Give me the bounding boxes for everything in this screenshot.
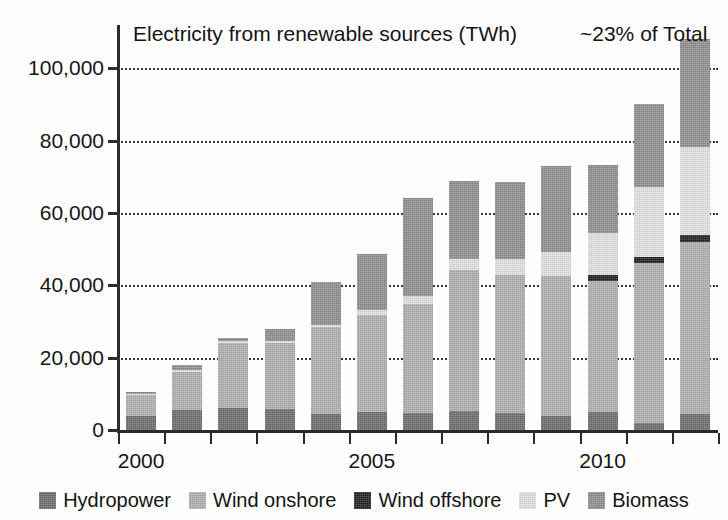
legend-label: PV [543,489,570,511]
bar-segment [126,393,156,415]
legend-label: Wind onshore [213,489,336,511]
y-axis-tick-mark [108,357,119,360]
legend-item[interactable]: Hydropower [39,489,171,511]
y-axis-tick-labels: 020,00040,00060,00080,000100,000 [0,0,104,520]
y-axis-tick-mark [108,140,119,143]
bar-segment [172,371,202,410]
legend-label: Hydropower [63,489,171,511]
x-axis-tick-mark [441,433,443,444]
bar-segment [588,275,618,280]
bar-segment [680,242,710,414]
x-axis-tick-label: 2000 [118,449,165,472]
legend-item[interactable]: PV [519,489,570,511]
bar-segment [634,263,664,423]
bar-segment [588,165,618,233]
bar-segment [541,276,571,416]
legend-swatch-icon [354,492,371,509]
bar-segment [265,409,295,430]
bar-segment [634,187,664,257]
bar-segment [172,370,202,372]
bar-group[interactable] [126,25,156,430]
y-axis-tick-label: 80,000 [40,130,104,151]
bar-segment [403,296,433,304]
y-axis-tick-label: 20,000 [40,347,104,368]
bar-group[interactable] [218,25,248,430]
bar-group[interactable] [403,25,433,430]
bar-segment [634,257,664,263]
bar-segment [357,412,387,430]
bar-group[interactable] [495,25,525,430]
bar-segment [403,198,433,296]
bar-group[interactable] [357,25,387,430]
bar-segment [495,182,525,259]
bar-segment [541,252,571,276]
bar-segment [265,342,295,409]
x-axis-tick-mark [164,433,166,444]
legend-item[interactable]: Wind onshore [189,489,336,511]
bar-segment [449,181,479,258]
legend-item[interactable]: Wind offshore [354,489,501,511]
bar-segment [449,270,479,411]
bar-segment [357,310,387,315]
bar-segment [218,408,248,430]
chart-legend: HydropowerWind onshoreWind offshorePVBio… [0,484,728,516]
x-axis-tick-mark [118,433,120,444]
plot-area [118,25,718,430]
bar-segment [680,414,710,430]
x-axis-tick-mark [303,433,305,444]
bar-segment [403,304,433,412]
bar-group[interactable] [449,25,479,430]
x-axis-tick-mark [349,433,351,444]
bar-group[interactable] [634,25,664,430]
legend-item[interactable]: Biomass [588,489,689,511]
legend-label: Wind offshore [378,489,501,511]
bar-segment [357,315,387,412]
x-axis-tick-mark [256,433,258,444]
chart-title: Electricity from renewable sources (TWh) [133,22,517,46]
y-axis-tick-mark [108,284,119,287]
y-axis-tick-label: 60,000 [40,202,104,223]
bar-group[interactable] [541,25,571,430]
bar-segment [634,423,664,430]
bar-segment [403,413,433,430]
bar-segment [311,282,341,325]
bar-group[interactable] [311,25,341,430]
bar-segment [541,416,571,430]
bar-group[interactable] [265,25,295,430]
y-axis-tick-label: 100,000 [28,57,104,78]
x-axis-tick-mark [533,433,535,444]
bar-segment [265,341,295,343]
legend-swatch-icon [588,492,605,509]
chart-figure: 020,00040,00060,00080,000100,000 2000200… [0,0,728,520]
bar-segment [218,341,248,408]
bar-segment [172,365,202,370]
y-axis-tick-mark [108,67,119,70]
bar-segment [311,325,341,327]
bar-segment [126,416,156,430]
bar-group[interactable] [680,25,710,430]
legend-swatch-icon [519,492,536,509]
bar-segment [449,259,479,270]
bar-segment [172,410,202,430]
bar-segment [588,412,618,430]
y-axis-tick-label: 0 [92,419,104,440]
x-axis-tick-label: 2005 [348,449,395,472]
bar-segment [680,39,710,147]
bar-segment [218,338,248,341]
bar-segment [680,235,710,242]
y-axis-tick-label: 40,000 [40,274,104,295]
x-axis-tick-mark [672,433,674,444]
bar-segment [541,166,571,251]
x-axis-tick-mark [210,433,212,444]
bar-group[interactable] [172,25,202,430]
bar-segment [311,327,341,414]
bar-group[interactable] [588,25,618,430]
bar-segment [449,411,479,430]
x-axis-line [117,430,718,433]
bar-segment [357,254,387,310]
bar-segment [680,147,710,236]
x-axis-tick-mark [626,433,628,444]
x-axis-tick-mark [580,433,582,444]
bar-segment [126,392,156,394]
legend-swatch-icon [189,492,206,509]
